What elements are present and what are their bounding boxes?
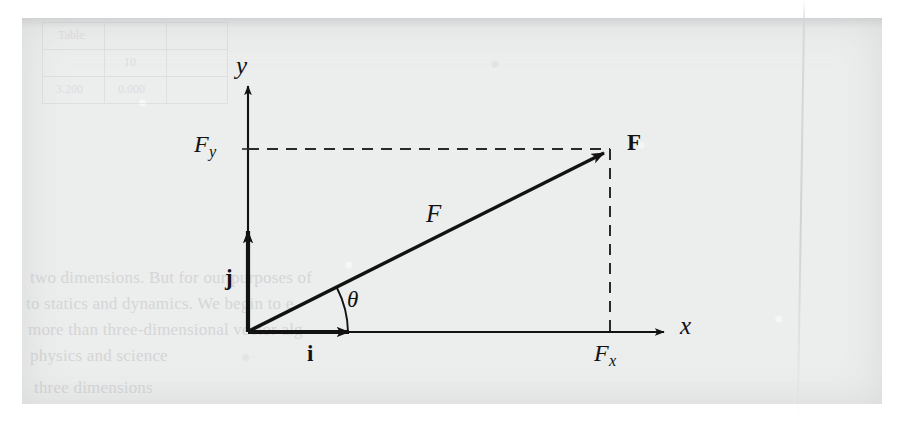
- y-axis-label: y: [236, 52, 247, 80]
- paper-surface: [22, 18, 882, 404]
- fx-component-label: Fx: [594, 340, 616, 371]
- x-axis-label: x: [680, 312, 691, 340]
- theta-angle-label: θ: [347, 287, 358, 313]
- force-vector-F-label: F: [627, 130, 641, 156]
- scanned-figure-page: Table 10 0.000 3.200 two dimensions. But…: [0, 0, 899, 421]
- fx-base: F: [594, 340, 609, 366]
- paper-grain-texture: [22, 18, 882, 404]
- unit-vector-j-label: j: [225, 265, 233, 291]
- fy-base: F: [194, 131, 209, 157]
- fy-component-label: Fy: [194, 131, 216, 162]
- force-magnitude-F-label: F: [426, 200, 441, 228]
- unit-vector-i-label: i: [307, 341, 313, 367]
- fy-subscript: y: [209, 142, 216, 161]
- fx-subscript: x: [609, 351, 616, 370]
